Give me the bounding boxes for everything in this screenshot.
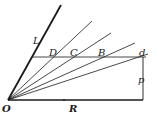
label-p: p xyxy=(138,74,145,85)
label-d: d xyxy=(139,47,145,58)
label-C: C xyxy=(70,47,78,58)
label-L: L xyxy=(32,35,40,46)
label-D: D xyxy=(48,47,57,58)
label-O: O xyxy=(2,103,11,114)
diagram-canvas: L D C B d p O R xyxy=(0,0,158,121)
ray-C xyxy=(8,33,111,100)
ray-D xyxy=(8,21,92,100)
label-R: R xyxy=(68,103,77,114)
label-B: B xyxy=(97,47,105,58)
